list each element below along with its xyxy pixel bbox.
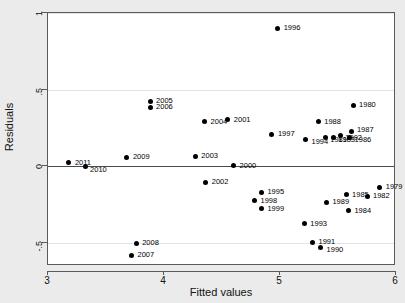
data-point-label: 2008 <box>142 239 159 247</box>
data-point-label: 1984 <box>354 207 371 215</box>
scatter-plot-figure: 2011201020092007200820052006200320022004… <box>0 0 405 303</box>
data-point-label: 2003 <box>201 152 218 160</box>
data-point <box>259 190 264 195</box>
x-tick-label: 3 <box>44 275 50 286</box>
data-point <box>303 137 308 142</box>
data-point-label: 1996 <box>284 24 301 32</box>
y-tick-label: -.5 <box>34 241 44 252</box>
data-point <box>148 99 153 104</box>
x-tick-label: 4 <box>160 275 166 286</box>
x-tick-label: 6 <box>392 275 398 286</box>
gridline-y <box>48 243 394 244</box>
data-point-label: 1987 <box>357 126 374 134</box>
data-point <box>193 154 198 159</box>
data-point <box>83 164 88 169</box>
data-point <box>344 192 349 197</box>
data-point-label: 1979 <box>386 183 403 191</box>
data-point-label: 1999 <box>267 205 284 213</box>
data-point-label: 2000 <box>240 162 257 170</box>
data-point <box>129 253 134 258</box>
data-point <box>148 105 153 110</box>
x-tick-label: 5 <box>276 275 282 286</box>
data-point-label: 1988 <box>324 118 341 126</box>
data-point <box>203 180 208 185</box>
plot-area: 2011201020092007200820052006200320022004… <box>48 13 394 264</box>
data-point-label: 1989 <box>332 198 349 206</box>
y-tick-label: .5 <box>34 88 44 96</box>
data-point <box>269 132 274 137</box>
x-axis-title-text: Fitted values <box>190 286 252 298</box>
data-point <box>124 155 129 160</box>
data-point <box>134 241 139 246</box>
data-point <box>302 221 307 226</box>
y-axis-ticks: 1.50-.5 <box>20 12 47 265</box>
data-point <box>351 103 356 108</box>
data-point-label: 2007 <box>138 251 155 259</box>
data-point-label: 1993 <box>310 220 327 228</box>
data-point-label: 1990 <box>327 246 344 254</box>
gridline-y <box>48 13 394 14</box>
x-axis-ticks: 3456 <box>47 271 395 287</box>
data-point <box>377 185 382 190</box>
data-point <box>252 198 257 203</box>
x-axis-title: Fitted values <box>47 286 395 298</box>
data-point-label: 2002 <box>212 178 229 186</box>
data-point <box>316 119 321 124</box>
data-point <box>365 194 370 199</box>
data-point-label: 1982 <box>373 192 390 200</box>
data-point <box>318 245 323 250</box>
data-point-label: 2001 <box>234 116 251 124</box>
data-point <box>202 119 207 124</box>
data-point-label: 2010 <box>90 166 107 174</box>
data-point <box>66 160 71 165</box>
y-axis-line <box>47 12 48 265</box>
data-point <box>324 200 329 205</box>
data-point <box>310 240 315 245</box>
data-point <box>225 117 230 122</box>
data-point-label: 1995 <box>267 188 284 196</box>
plot-frame: 2011201020092007200820052006200320022004… <box>47 12 395 265</box>
data-point <box>275 26 280 31</box>
y-tick-label: 1 <box>34 11 44 16</box>
data-point <box>338 133 343 138</box>
data-point-label: 1997 <box>278 130 295 138</box>
data-point-label: 1980 <box>359 101 376 109</box>
data-point <box>347 135 352 140</box>
data-point <box>259 206 264 211</box>
data-point <box>346 208 351 213</box>
y-axis-title: Residuals <box>2 0 16 253</box>
y-tick-label: 0 <box>34 164 44 169</box>
y-axis-title-text: Residuals <box>3 102 15 150</box>
data-point-label: 2006 <box>156 103 173 111</box>
gridline-y <box>48 90 394 91</box>
data-point-label: 1986 <box>355 136 372 144</box>
data-point-label: 2009 <box>133 153 150 161</box>
